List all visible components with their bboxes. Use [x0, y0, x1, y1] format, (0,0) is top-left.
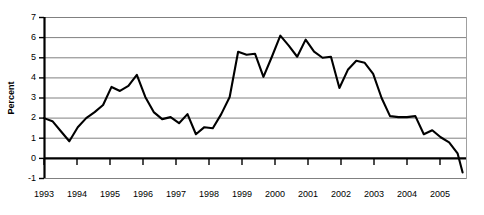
y-tick-label-1: 1 — [31, 133, 36, 143]
x-tick-label-2000: 2000 — [265, 189, 285, 199]
x-tick-label-2001: 2001 — [298, 189, 318, 199]
x-tick-label-2004: 2004 — [397, 189, 417, 199]
y-tick-label-5: 5 — [31, 52, 36, 62]
y-tick-label-0: 0 — [31, 153, 36, 163]
x-tick-label-1994: 1994 — [67, 189, 87, 199]
y-tick-label-7: 7 — [31, 12, 36, 22]
y-tick-label-minus1: -1 — [28, 173, 36, 183]
y-tick-label-6: 6 — [31, 32, 36, 42]
y-tick-label-3: 3 — [31, 92, 36, 102]
x-tick-label-2005: 2005 — [430, 189, 450, 199]
data-series-line — [44, 36, 463, 173]
y-tick-label-2: 2 — [31, 112, 36, 122]
chart-container: 7 6 5 4 3 2 1 0 -1 Percent — [0, 0, 484, 215]
y-tick-label-4: 4 — [31, 72, 36, 82]
x-tick-label-1993: 1993 — [34, 189, 54, 199]
line-chart: 7 6 5 4 3 2 1 0 -1 Percent — [0, 0, 484, 215]
x-tick-label-1995: 1995 — [100, 189, 120, 199]
x-tick-labels: 1993 1994 1995 1996 1997 1998 1999 2000 … — [34, 189, 450, 199]
x-tick-label-2002: 2002 — [331, 189, 351, 199]
y-tick-labels: 7 6 5 4 3 2 1 0 -1 — [28, 12, 36, 183]
y-tickmarks — [39, 18, 44, 179]
x-tick-label-2003: 2003 — [364, 189, 384, 199]
x-tick-label-1996: 1996 — [133, 189, 153, 199]
x-tick-label-1997: 1997 — [166, 189, 186, 199]
y-axis-title: Percent — [6, 81, 16, 114]
x-tick-label-1998: 1998 — [199, 189, 219, 199]
x-tick-label-1999: 1999 — [232, 189, 252, 199]
